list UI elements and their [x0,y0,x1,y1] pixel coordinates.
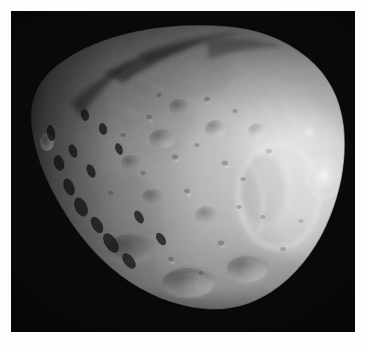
photographic-plate [11,11,355,332]
phobos-body [11,11,355,332]
surface-texture-fine [11,11,355,332]
phobos-illustration [11,11,355,332]
image-alt-text: Grayscale photograph of the Martian moon… [0,0,1,1]
image-canvas: Grayscale photograph of the Martian moon… [0,0,368,347]
phobos-surface [11,11,355,332]
